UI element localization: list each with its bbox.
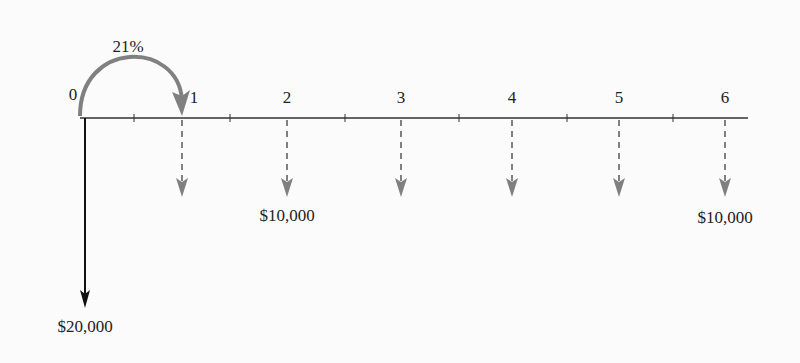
period-labels: 0 1 2 3 4 5 6	[69, 85, 730, 107]
initial-outflow-arrow: $20,000	[57, 118, 112, 336]
cash-flow-diagram: 0 1 2 3 4 5 6 21% $20,000 $10,000 $10,00…	[0, 0, 800, 363]
outflow-arrows	[182, 120, 725, 182]
period-label-2: 2	[283, 88, 292, 107]
period-label-1: 1	[190, 88, 199, 107]
outflow-arrowheads	[176, 178, 731, 197]
period-label-6: 6	[721, 88, 730, 107]
interest-rate-label: 21%	[112, 37, 143, 56]
period-label-3: 3	[397, 88, 406, 107]
outflow-label-2: $10,000	[259, 206, 314, 225]
period-label-5: 5	[615, 88, 624, 107]
period-label-0: 0	[69, 85, 78, 104]
interest-rate-arc: 21%	[80, 37, 190, 116]
period-label-4: 4	[508, 88, 517, 107]
outflow-label-6: $10,000	[697, 208, 752, 227]
initial-outflow-label: $20,000	[57, 317, 112, 336]
